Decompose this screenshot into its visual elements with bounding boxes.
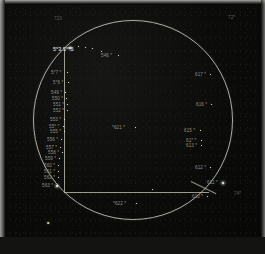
region-boundary-vertical bbox=[64, 49, 65, 192]
star-id-label-left: 553 * bbox=[50, 118, 61, 123]
star-id-label-left: 546 * bbox=[101, 54, 112, 59]
star-id-label-right: 617 * bbox=[195, 73, 206, 78]
star-id-label-left: 561 * bbox=[44, 170, 55, 175]
star-id-label-left: 550 * bbox=[52, 97, 63, 102]
star-id-label-right: 615 * bbox=[184, 129, 195, 134]
star-id-label-right: 613 * bbox=[186, 144, 197, 149]
plate-corner-label: 723 bbox=[54, 17, 62, 22]
star-id-label-left: 562 * bbox=[44, 176, 55, 181]
plate-corner-label: 72* bbox=[228, 16, 235, 21]
star-id-label-left: 5*6 * bbox=[53, 81, 63, 86]
region-boundary-horizontal bbox=[64, 192, 209, 193]
star-id-label-right: 611 * bbox=[207, 181, 218, 186]
plate-field: 5*3 5**5546 *5*7 *5*6 *549 *550 *551 *55… bbox=[6, 5, 260, 237]
star-id-label-center: *622 * bbox=[113, 202, 126, 207]
plate-orientation-marker: * bbox=[47, 221, 49, 227]
star-id-label-left: 551 * bbox=[53, 103, 64, 108]
star-plate-chart: 5*3 5**5546 *5*7 *5*6 *549 *550 *551 *55… bbox=[0, 0, 265, 254]
star-id-label-center: *621 * bbox=[112, 126, 125, 131]
star-id-label-right: 612 * bbox=[195, 166, 206, 171]
star-id-label-left: 5*3 5**5 bbox=[53, 47, 74, 52]
scan-margin-top bbox=[0, 0, 265, 4]
star-id-label-left: 556 * bbox=[47, 138, 58, 143]
star-id-label-left: 559 * bbox=[45, 157, 56, 162]
scan-margin-left bbox=[0, 0, 5, 254]
star-id-label-left: 560 * bbox=[44, 164, 55, 169]
star-id-label-left: 549 * bbox=[51, 91, 62, 96]
star-id-label-left: 555 * bbox=[50, 130, 61, 135]
star-id-label-left: 563 * bbox=[42, 184, 53, 189]
scan-margin-bottom bbox=[0, 237, 265, 254]
plate-corner-label: 74* bbox=[234, 192, 241, 197]
scan-margin-right bbox=[261, 0, 265, 254]
star-id-label-left: 552 * bbox=[53, 109, 64, 114]
star-id-label-left: 5*7 * bbox=[51, 71, 61, 76]
star-id-label-left: 558 * bbox=[48, 151, 59, 156]
star-id-label-right: 610 * bbox=[192, 195, 203, 200]
star-id-label-right: 616 * bbox=[196, 103, 207, 108]
